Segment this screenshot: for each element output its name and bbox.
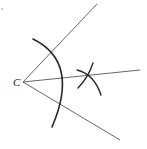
compass-arc xyxy=(33,39,62,127)
lower-ray xyxy=(23,82,120,140)
angle-bisector-diagram: C xyxy=(0,0,147,149)
vertex-label: C xyxy=(13,76,21,88)
stray-dot xyxy=(1,8,3,10)
